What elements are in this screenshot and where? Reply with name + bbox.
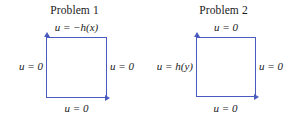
- boundary-label-bottom-problem-1: u = 0: [34, 103, 119, 114]
- boundary-label-bottom-problem-2: u = 0: [183, 103, 268, 114]
- domain-square-problem-2: [196, 37, 256, 97]
- arrow-up-icon-problem-2: [194, 32, 200, 37]
- boundary-value-problems-figure: Problem 1 u = −h(x) u = 0 u = 0 u = 0 Pr…: [0, 0, 298, 123]
- panel-title-problem-2: Problem 2: [149, 4, 298, 16]
- boundary-label-left-problem-2: u = h(y): [143, 61, 193, 72]
- arrow-right-icon-problem-2: [254, 94, 259, 100]
- panel-problem-2: Problem 2 u = 0 u = h(y) u = 0 u = 0: [149, 0, 298, 123]
- boundary-label-right-problem-2: u = 0: [259, 61, 298, 72]
- boundary-label-left-problem-1: u = 0: [2, 61, 43, 72]
- domain-square-problem-1: [46, 37, 107, 98]
- arrow-up-icon-problem-1: [44, 32, 50, 37]
- arrow-right-icon-problem-1: [105, 95, 110, 101]
- panel-problem-1: Problem 1 u = −h(x) u = 0 u = 0 u = 0: [0, 0, 149, 123]
- panel-title-problem-1: Problem 1: [0, 4, 149, 16]
